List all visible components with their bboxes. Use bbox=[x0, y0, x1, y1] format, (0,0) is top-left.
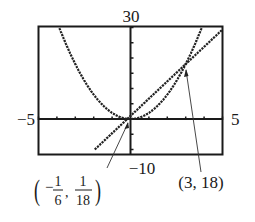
xmax-label: 5 bbox=[231, 110, 240, 129]
graphing-calculator-chart: 30 −5 5 −10 ( − 1 6 , 1 18 ) (3, 18) bbox=[0, 0, 255, 222]
svg-text:6: 6 bbox=[55, 193, 62, 208]
svg-text:−: − bbox=[45, 179, 53, 195]
xmin-label: −5 bbox=[17, 110, 35, 129]
ymin-label: −10 bbox=[129, 159, 156, 178]
svg-text:18: 18 bbox=[76, 193, 90, 208]
annotation-label-right: (3, 18) bbox=[178, 173, 223, 192]
ymax-label: 30 bbox=[123, 7, 140, 26]
svg-text:): ) bbox=[95, 173, 101, 207]
svg-text:(: ( bbox=[34, 173, 40, 207]
svg-text:1: 1 bbox=[55, 174, 62, 189]
svg-text:1: 1 bbox=[80, 174, 87, 189]
svg-text:,: , bbox=[65, 185, 69, 200]
annotation-label-left: ( − 1 6 , 1 18 ) bbox=[34, 173, 101, 208]
